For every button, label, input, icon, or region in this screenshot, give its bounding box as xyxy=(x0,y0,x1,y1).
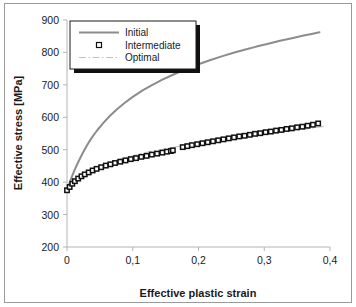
legend: Initial Intermediate Optimal xyxy=(70,21,200,73)
data-point-marker xyxy=(171,148,175,152)
y-tick-label: 200 xyxy=(41,241,59,253)
data-point-marker xyxy=(300,124,304,128)
data-point-marker xyxy=(94,167,98,171)
data-point-marker xyxy=(279,128,283,132)
y-axis-tick-labels: 200300400500600700800900 xyxy=(41,14,59,253)
data-point-marker xyxy=(311,123,315,127)
data-point-marker xyxy=(129,157,133,161)
data-point-marker xyxy=(237,134,241,138)
data-point-marker xyxy=(139,155,143,159)
data-point-marker xyxy=(305,124,309,128)
x-tick-label: 0,4 xyxy=(323,254,338,266)
data-point-marker xyxy=(160,150,164,154)
data-point-marker xyxy=(144,154,148,158)
data-point-marker xyxy=(108,162,112,166)
y-tick-label: 500 xyxy=(41,144,59,156)
x-tick-label: 0,2 xyxy=(191,254,206,266)
data-point-marker xyxy=(113,161,117,165)
legend-swatch-square-marker-icon xyxy=(97,43,102,48)
figure-container: 200300400500600700800900 00,10,20,30,4 E… xyxy=(0,0,356,307)
data-point-marker xyxy=(99,165,103,169)
data-point-marker xyxy=(263,130,267,134)
y-tick-label: 600 xyxy=(41,111,59,123)
data-point-marker xyxy=(134,156,138,160)
stress-strain-chart: 200300400500600700800900 00,10,20,30,4 E… xyxy=(0,0,356,307)
data-point-marker xyxy=(104,163,108,167)
data-point-marker xyxy=(248,133,252,137)
data-point-marker xyxy=(253,132,257,136)
data-point-marker xyxy=(227,136,231,140)
data-point-marker xyxy=(181,145,185,149)
legend-label-initial: Initial xyxy=(125,27,148,38)
x-tick-label: 0,3 xyxy=(257,254,272,266)
y-tick-label: 900 xyxy=(41,14,59,26)
data-point-marker xyxy=(269,129,273,133)
data-point-marker xyxy=(190,143,194,147)
y-axis-title: Effective stress [MPa] xyxy=(12,76,24,191)
x-tick-label: 0,1 xyxy=(125,254,140,266)
data-point-marker xyxy=(123,158,127,162)
data-point-marker xyxy=(185,144,189,148)
x-axis-tick-labels: 00,10,20,30,4 xyxy=(64,254,337,266)
data-point-marker xyxy=(216,138,220,142)
y-tick-label: 400 xyxy=(41,176,59,188)
data-point-marker xyxy=(284,127,288,131)
data-point-marker xyxy=(258,131,262,135)
data-point-marker xyxy=(232,135,236,139)
legend-label-optimal: Optimal xyxy=(125,52,159,63)
data-point-marker xyxy=(195,142,199,146)
y-tick-label: 700 xyxy=(41,79,59,91)
data-point-marker xyxy=(295,125,299,129)
data-point-marker xyxy=(242,134,246,138)
data-point-marker xyxy=(206,140,210,144)
data-point-marker xyxy=(155,151,159,155)
data-point-marker xyxy=(118,160,122,164)
y-tick-label: 800 xyxy=(41,46,59,58)
data-point-marker xyxy=(274,128,278,132)
legend-label-intermediate: Intermediate xyxy=(125,40,181,51)
x-tick-label: 0 xyxy=(64,254,70,266)
data-point-marker xyxy=(200,141,204,145)
data-point-marker xyxy=(150,152,154,156)
data-point-marker xyxy=(221,137,225,141)
y-tick-label: 300 xyxy=(41,209,59,221)
data-point-marker xyxy=(316,121,320,125)
data-point-marker xyxy=(211,139,215,143)
x-axis-title: Effective plastic strain xyxy=(140,287,257,299)
data-point-marker xyxy=(290,126,294,130)
